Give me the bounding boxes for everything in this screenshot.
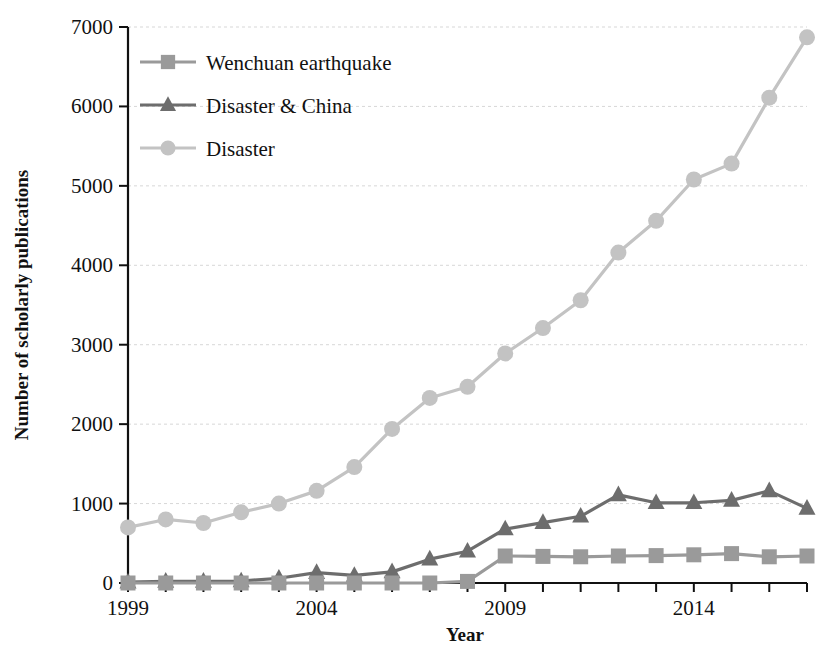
data-point-square [196, 576, 211, 591]
data-point-square [535, 549, 550, 564]
data-point-triangle [572, 507, 589, 523]
x-tick-label: 1999 [107, 596, 149, 620]
x-tick-label: 2009 [484, 596, 526, 620]
legend-label: Wenchuan earthquake [206, 51, 391, 75]
data-point-square [158, 576, 173, 591]
x-axis-title: Year [446, 624, 485, 645]
y-tick-label: 0 [103, 571, 114, 595]
y-tick-label: 5000 [71, 174, 113, 198]
data-point-square [234, 576, 249, 591]
data-point-square [347, 576, 362, 591]
data-point-circle [686, 172, 702, 188]
line-chart: 01000200030004000500060007000 1999200420… [0, 0, 831, 651]
data-point-circle [160, 140, 175, 155]
data-point-square [800, 548, 815, 563]
x-tick-label: 2014 [673, 596, 716, 620]
series-disaster-china [120, 482, 816, 589]
data-point-circle [271, 496, 287, 512]
data-point-square [762, 549, 777, 564]
y-tick-label: 1000 [71, 492, 113, 516]
data-point-square [460, 574, 475, 589]
data-point-circle [384, 421, 400, 437]
data-point-square [649, 548, 664, 563]
data-point-circle [724, 156, 740, 172]
data-point-triangle [459, 542, 476, 558]
x-tick-labels: 1999200420092014 [107, 596, 715, 620]
data-point-square [422, 576, 437, 591]
data-point-circle [158, 511, 174, 527]
data-point-square [573, 549, 588, 564]
y-tick-label: 3000 [71, 333, 113, 357]
y-tick-labels: 01000200030004000500060007000 [71, 15, 113, 595]
data-point-circle [799, 29, 815, 45]
legend-label: Disaster [206, 137, 275, 161]
data-point-square [385, 576, 400, 591]
data-point-square [121, 576, 136, 591]
data-point-circle [422, 390, 438, 406]
y-tick-label: 6000 [71, 94, 113, 118]
data-point-circle [195, 515, 211, 531]
y-tick-marks [119, 27, 128, 583]
data-point-square [611, 548, 626, 563]
data-point-triangle [610, 486, 627, 502]
data-point-square [271, 576, 286, 591]
data-point-square [161, 55, 175, 69]
data-point-circle [535, 320, 551, 336]
chart-legend: Wenchuan earthquakeDisaster & ChinaDisas… [140, 51, 391, 161]
data-point-square [686, 547, 701, 562]
data-point-square [309, 576, 324, 591]
x-tick-label: 2004 [296, 596, 339, 620]
data-point-circle [346, 459, 362, 475]
legend-item: Disaster [140, 137, 275, 161]
y-tick-label: 4000 [71, 253, 113, 277]
chart-figure: 01000200030004000500060007000 1999200420… [0, 0, 831, 651]
data-point-circle [573, 292, 589, 308]
legend-item: Disaster & China [140, 94, 352, 118]
legend-label: Disaster & China [206, 94, 352, 118]
data-point-circle [648, 213, 664, 229]
data-point-square [498, 548, 513, 563]
series-line [128, 491, 807, 582]
data-point-circle [497, 345, 513, 361]
data-point-circle [233, 504, 249, 520]
y-axis-title: Number of scholarly publications [11, 170, 32, 440]
y-tick-label: 2000 [71, 412, 113, 436]
data-point-circle [610, 245, 626, 261]
data-point-square [724, 546, 739, 561]
legend-item: Wenchuan earthquake [140, 51, 391, 75]
data-point-triangle [761, 482, 778, 498]
data-point-circle [309, 483, 325, 499]
data-point-circle [761, 90, 777, 106]
data-point-circle [120, 519, 136, 535]
data-point-circle [460, 379, 476, 395]
y-tick-label: 7000 [71, 15, 113, 39]
